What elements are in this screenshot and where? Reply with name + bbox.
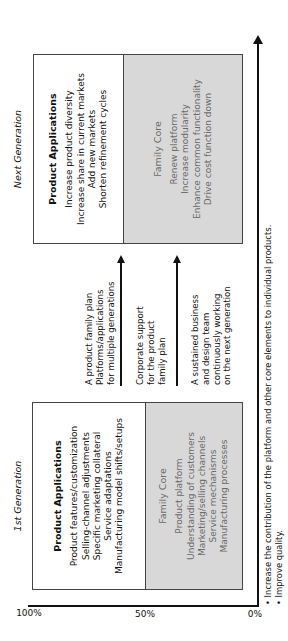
transition-group-2: Corporate support for the product family…	[135, 306, 167, 385]
transition-line: for the product	[146, 306, 157, 385]
transition-group-3: A sustained business and design team con…	[190, 286, 233, 385]
first-gen-pa-item: Selling-channel adjustments	[81, 432, 92, 560]
first-gen-pa-item: Service adaptations	[103, 451, 114, 541]
first-gen-fc-heading: Family Core	[157, 468, 168, 524]
footer-bullets: • Increase the contribution of the platf…	[263, 225, 285, 605]
transition-arrow-1	[120, 262, 122, 386]
transition-line: and design team	[201, 286, 212, 385]
first-gen-fc-item: Marketing/selling channels	[197, 436, 208, 556]
next-gen-family-core: Family Core Renew platform Increase modu…	[124, 55, 242, 243]
first-generation-title: 1st Generation	[12, 402, 23, 590]
next-gen-pa-item: Increase product diversity	[64, 90, 75, 207]
next-generation-box: Product Applications Increase product di…	[33, 54, 243, 244]
y-axis-line	[28, 606, 259, 608]
transition-group-1: A product family plan Platforms/applicat…	[84, 281, 116, 385]
first-gen-pa-item: Manufacturing model shifts/setups	[114, 418, 125, 574]
next-gen-fc-item: Increase modularity	[180, 104, 191, 194]
first-generation-box: Product Applications Product features/cu…	[32, 402, 243, 590]
y-tick-100: 100%	[9, 608, 49, 618]
bullet-item: • Increase the contribution of the platf…	[263, 225, 274, 605]
first-gen-pa-item: Specific marketing collateral	[92, 432, 103, 560]
first-gen-fc-item: Manufacturing processes	[219, 440, 230, 553]
first-gen-family-core: Family Core Product platform Understandi…	[146, 403, 242, 589]
product-family-diagram: 1st Generation Next Generation 100% 50% …	[0, 0, 288, 641]
x-axis-line	[257, 42, 259, 607]
x-axis-arrow-icon	[253, 35, 263, 44]
transition-line: A sustained business	[190, 286, 201, 385]
transition-line: on the next generation	[222, 286, 233, 385]
first-gen-pa-item: Product features/customization	[69, 426, 80, 566]
next-generation-title: Next Generation	[12, 54, 23, 244]
next-gen-pa-item: Add new markets	[87, 110, 98, 188]
first-gen-fc-item: Understanding of customers	[186, 432, 197, 560]
transition-line: family plan	[157, 306, 168, 385]
transition-arrow-2	[176, 262, 178, 386]
transition-line: Corporate support	[135, 306, 146, 385]
next-gen-pa-item: Shorten refinement cycles	[98, 90, 109, 209]
first-gen-pa-heading: Product Applications	[52, 440, 63, 551]
next-gen-fc-heading: Family Core	[152, 121, 163, 177]
transition-line: continuously working	[212, 286, 223, 385]
next-gen-pa-heading: Product Applications	[47, 93, 58, 204]
first-gen-fc-item: Product platform	[174, 458, 185, 533]
bullet-item: • Improve quality.	[274, 225, 285, 605]
next-gen-fc-item: Enhance common functionality	[192, 79, 203, 219]
transition-line: Platforms/applications	[95, 281, 106, 385]
y-tick-50: 50%	[130, 609, 160, 619]
transition-line: for multiple generations	[106, 281, 117, 385]
first-gen-product-applications: Product Applications Product features/cu…	[33, 403, 146, 589]
transition-line: A product family plan	[84, 281, 95, 385]
next-gen-product-applications: Product Applications Increase product di…	[34, 55, 124, 243]
arrow-right-icon	[117, 255, 125, 263]
y-tick-0: 0%	[242, 609, 268, 619]
next-gen-fc-item: Renew platform	[169, 113, 180, 184]
arrow-right-icon	[173, 255, 181, 263]
next-gen-fc-item: Drive cost function down	[203, 93, 214, 205]
first-gen-fc-item: Service mechanisms	[208, 450, 219, 543]
next-gen-pa-item: Increase share in current markets	[76, 73, 87, 225]
